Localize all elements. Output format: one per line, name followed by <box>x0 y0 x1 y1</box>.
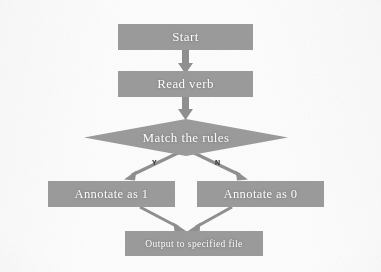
node-annotate-zero <box>197 181 324 207</box>
node-match-rules <box>84 119 288 156</box>
flowchart-graphics <box>0 0 381 272</box>
node-start <box>118 24 253 50</box>
edge-annotate-zero-to-output <box>188 207 232 233</box>
edge-match-rules-to-annotate-one <box>124 152 180 181</box>
edge-match-rules-to-annotate-zero <box>192 152 248 181</box>
node-output-file <box>125 231 263 256</box>
node-annotate-one <box>48 181 175 207</box>
edge-annotate-one-to-output <box>140 207 186 233</box>
node-read-verb <box>118 71 253 97</box>
edge-start-to-read-verb <box>178 50 193 74</box>
flowchart-canvas: Start Read verb Match the rules Annotate… <box>0 0 381 272</box>
edge-read-verb-to-match-rules <box>178 97 193 120</box>
